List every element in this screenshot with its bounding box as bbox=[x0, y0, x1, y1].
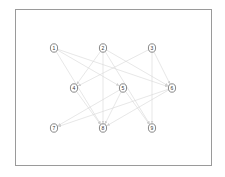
edge-6-to-8 bbox=[107, 90, 168, 126]
node-1: 1 bbox=[50, 44, 57, 52]
node-6: 6 bbox=[168, 84, 175, 92]
node-label: 5 bbox=[122, 85, 125, 91]
edge-2-to-4 bbox=[77, 51, 101, 84]
node-4: 4 bbox=[70, 84, 77, 92]
node-label: 1 bbox=[53, 45, 56, 51]
graph-canvas: 123456789 bbox=[0, 0, 225, 177]
node-7: 7 bbox=[50, 124, 57, 132]
node-label: 6 bbox=[171, 85, 174, 91]
node-label: 8 bbox=[102, 125, 105, 131]
node-label: 4 bbox=[73, 85, 76, 91]
edge-5-to-7 bbox=[58, 90, 119, 126]
node-label: 2 bbox=[102, 45, 105, 51]
node-9: 9 bbox=[148, 124, 155, 132]
node-8: 8 bbox=[99, 124, 106, 132]
edge-6-to-7 bbox=[58, 89, 168, 126]
node-label: 3 bbox=[151, 45, 154, 51]
node-label: 9 bbox=[151, 125, 154, 131]
node-3: 3 bbox=[148, 44, 155, 52]
node-label: 7 bbox=[53, 125, 56, 131]
node-5: 5 bbox=[119, 84, 126, 92]
node-2: 2 bbox=[99, 44, 106, 52]
